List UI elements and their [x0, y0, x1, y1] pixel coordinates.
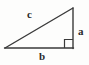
side-c-line — [5, 8, 73, 48]
side-label-a: a — [78, 26, 84, 37]
side-label-c: c — [27, 9, 32, 20]
side-label-b: b — [39, 51, 45, 62]
right-triangle-figure: c a b — [0, 0, 89, 65]
right-angle-marker-icon — [65, 40, 74, 49]
